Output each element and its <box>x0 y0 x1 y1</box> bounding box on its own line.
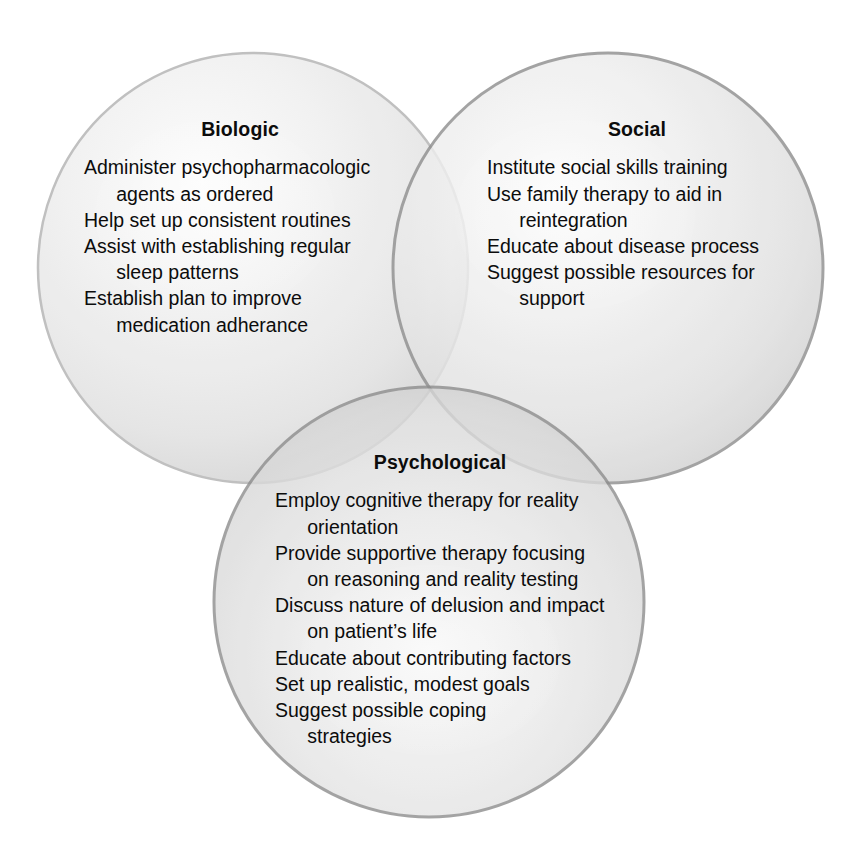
list-item: Help set up consistent routines <box>84 207 396 233</box>
list-item: Discuss nature of delusion and impact on… <box>275 592 605 644</box>
list-item: Use family therapy to aid in reintegrati… <box>487 181 787 233</box>
list-item: Provide supportive therapy focusing on r… <box>275 540 605 592</box>
list-item: Institute social skills training <box>487 154 787 180</box>
list-item: Assist with establishing regular sleep p… <box>84 233 396 285</box>
group-title-social: Social <box>487 117 787 141</box>
list-item: Administer psychopharmacologic agents as… <box>84 154 396 206</box>
group-title-psychological: Psychological <box>275 450 605 474</box>
group-block-biologic: Biologic Administer psychopharmacologic … <box>84 117 396 338</box>
list-item: Educate about contributing factors <box>275 645 605 671</box>
list-item: Suggest possible coping strategies <box>275 697 605 749</box>
group-list-biologic: Administer psychopharmacologic agents as… <box>84 154 396 338</box>
group-block-social: Social Institute social skills training … <box>487 117 787 312</box>
venn-diagram-figure: Biologic Administer psychopharmacologic … <box>0 0 857 847</box>
list-item: Set up realistic, modest goals <box>275 671 605 697</box>
group-block-psychological: Psychological Employ cognitive therapy f… <box>275 450 605 750</box>
group-list-social: Institute social skills training Use fam… <box>487 154 787 311</box>
list-item: Establish plan to improve medication adh… <box>84 285 396 337</box>
list-item: Educate about disease process <box>487 233 787 259</box>
group-list-psychological: Employ cognitive therapy for reality ori… <box>275 487 605 749</box>
list-item: Employ cognitive therapy for reality ori… <box>275 487 605 539</box>
group-title-biologic: Biologic <box>84 117 396 141</box>
list-item: Suggest possible resources for support <box>487 259 787 311</box>
